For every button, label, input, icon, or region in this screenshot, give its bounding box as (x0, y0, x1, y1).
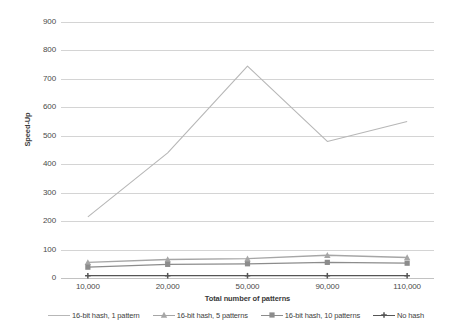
y-tick-label: 400 (26, 159, 56, 169)
y-tick-label: 600 (26, 102, 56, 112)
x-tick-label: 10,000 (53, 282, 123, 291)
y-axis-tick-labels: 0100200300400500600700800900 (26, 16, 56, 280)
x-axis-tick-labels: 10,00020,00050,00090,000110,000 (61, 282, 434, 294)
data-point-marker (85, 273, 91, 279)
data-point-marker (245, 273, 251, 279)
legend-entry[interactable]: No hash (373, 310, 424, 320)
data-point-marker (245, 261, 250, 266)
speed-up-line-chart: Speed-Up 0100200300400500600700800900 10… (0, 0, 472, 331)
data-point-marker (325, 260, 330, 265)
data-point-marker (404, 273, 410, 279)
series-0 (88, 66, 407, 217)
y-tick-label: 900 (26, 17, 56, 27)
series-3 (85, 273, 410, 279)
x-tick-label: 110,000 (372, 282, 442, 291)
legend-swatch-triangle-icon (153, 310, 175, 320)
data-point-marker (165, 273, 171, 279)
y-tick-label: 300 (26, 188, 56, 198)
legend-swatch-cross-icon (373, 310, 395, 320)
y-tick-label: 200 (26, 216, 56, 226)
legend-entry[interactable]: 16-bit hash, 5 patterns (153, 310, 248, 320)
legend-label: 16-bit hash, 5 patterns (177, 311, 248, 320)
y-tick-label: 500 (26, 131, 56, 141)
legend-entry[interactable]: 16-bit hash, 1 pattern (48, 310, 140, 320)
x-tick-label: 90,000 (292, 282, 362, 291)
plot-area (61, 22, 434, 278)
data-point-marker (165, 262, 170, 267)
plot-series-svg (61, 22, 434, 278)
legend-swatch-square-icon (261, 310, 283, 320)
x-tick-label: 50,000 (213, 282, 283, 291)
data-point-marker (85, 265, 90, 270)
legend-label: 16-bit hash, 1 pattern (72, 311, 140, 320)
chart-legend: 16-bit hash, 1 pattern16-bit hash, 5 pat… (0, 308, 472, 322)
y-tick-label: 800 (26, 45, 56, 55)
legend-label: No hash (397, 311, 424, 320)
data-point-marker (405, 261, 410, 266)
legend-entry[interactable]: 16-bit hash, 10 patterns (261, 310, 360, 320)
legend-swatch-none-icon (48, 310, 70, 320)
x-axis-title: Total number of patterns (61, 294, 434, 303)
data-point-marker (325, 273, 331, 279)
series-line (88, 66, 407, 217)
y-tick-label: 0 (26, 273, 56, 283)
y-tick-label: 100 (26, 245, 56, 255)
y-tick-label: 700 (26, 74, 56, 84)
legend-label: 16-bit hash, 10 patterns (285, 311, 360, 320)
x-tick-label: 20,000 (133, 282, 203, 291)
